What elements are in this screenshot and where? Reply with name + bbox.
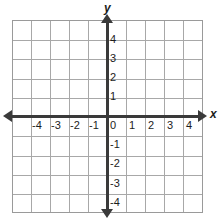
x-tick-label-4: 4 bbox=[186, 119, 192, 131]
x-tick-label--2: -2 bbox=[70, 119, 80, 131]
x-tick-label-3: 3 bbox=[167, 119, 173, 131]
x-tick-label--3: -3 bbox=[51, 119, 61, 131]
y-tick-label--4: -4 bbox=[110, 196, 120, 208]
y-tick-label-2: 2 bbox=[110, 71, 116, 83]
y-axis-down-arrow-icon bbox=[101, 209, 113, 218]
x-axis-right-arrow-icon bbox=[198, 110, 207, 122]
y-tick-label--2: -2 bbox=[110, 157, 120, 169]
y-tick-label-3: 3 bbox=[110, 52, 116, 64]
y-axis-up-arrow-icon bbox=[101, 14, 113, 23]
y-tick-label-1: 1 bbox=[110, 90, 116, 102]
x-axis-label: x bbox=[210, 108, 217, 121]
x-tick-label-1: 1 bbox=[129, 119, 135, 131]
origin-label: 0 bbox=[110, 119, 116, 131]
x-tick-label--1: -1 bbox=[89, 119, 99, 131]
y-tick-label--1: -1 bbox=[110, 138, 120, 150]
x-tick-label-2: 2 bbox=[148, 119, 154, 131]
coordinate-plane-figure: y x 0 -4 -3 -2 -1 1 2 3 4 4 3 2 1 -1 -2 … bbox=[0, 0, 222, 223]
y-tick-label--3: -3 bbox=[110, 177, 120, 189]
x-axis-left-arrow-icon bbox=[3, 110, 12, 122]
y-axis-line bbox=[106, 22, 109, 211]
y-axis-label: y bbox=[104, 2, 111, 15]
y-tick-label-4: 4 bbox=[110, 33, 116, 45]
x-tick-label--4: -4 bbox=[32, 119, 42, 131]
